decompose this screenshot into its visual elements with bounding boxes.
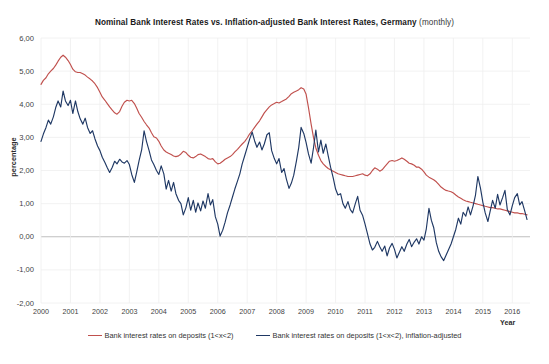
series-line-real [41,91,527,261]
legend-swatch-nominal [88,335,102,336]
chart-legend: Bank interest rates on deposits (1<x<2) … [0,331,549,340]
y-tick-label: 6,00 [6,34,34,43]
legend-item-nominal[interactable]: Bank interest rates on deposits (1<x<2) [88,331,234,340]
y-tick-label: 4,00 [6,100,34,109]
x-axis-title: Year [500,318,515,327]
y-tick-label: 1,00 [6,199,34,208]
series-line-nominal [41,55,527,215]
chart-container: Nominal Bank Interest Rates vs. Inflatio… [0,0,549,364]
y-tick-label: -1,00 [6,265,34,274]
y-axis-title: percentage [9,122,18,192]
x-tick-label: 2016 [495,307,529,316]
legend-label-nominal: Bank interest rates on deposits (1<x<2) [105,331,234,340]
y-tick-label: 0,00 [6,232,34,241]
legend-label-real: Bank interest rates on deposits (1<x<2),… [273,331,462,340]
legend-item-real[interactable]: Bank interest rates on deposits (1<x<2),… [256,331,462,340]
legend-swatch-real [256,335,270,336]
y-tick-label: 5,00 [6,67,34,76]
